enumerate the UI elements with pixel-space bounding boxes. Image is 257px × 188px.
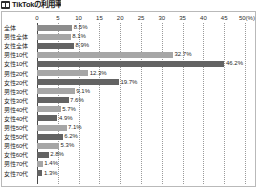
bar-value-label: 46.2% <box>226 60 243 67</box>
bar-value-label: 9.1% <box>76 88 90 95</box>
x-tick-label: 45 <box>221 14 228 22</box>
bar-value-label: 1.4% <box>44 160 58 167</box>
bar-value-label: 8.5% <box>74 24 88 31</box>
x-tick-label: 15 <box>96 14 103 22</box>
bar-rows: 全体8.5%男性全体8.1%女性全体8.9%男性10代32.7%女性10代46.… <box>2 23 255 184</box>
bar-category-label: 女性30代 <box>4 96 36 105</box>
bar-category-label: 女性40代 <box>4 114 36 123</box>
bar-category-label: 女性60代 <box>4 150 36 159</box>
bar-track: 32.7% <box>37 50 243 59</box>
bar-row: 男性10代32.7% <box>2 50 255 59</box>
bar-track: 6.2% <box>37 132 243 141</box>
x-tick-label: 40 <box>200 14 207 22</box>
bar-category-label: 女性20代 <box>4 78 36 87</box>
bar-track: 46.2% <box>37 59 243 68</box>
bar-row: 女性全体8.9% <box>2 41 255 50</box>
bar-value-label: 8.1% <box>72 33 86 40</box>
tiktok-usage-rate-chart-panel: TikTokの利用率 05101520253035404550(%) 全体8.5… <box>0 0 257 188</box>
bar <box>37 152 49 158</box>
bar-category-label: 男性50代 <box>4 123 36 132</box>
bar-category-label: 女性全体 <box>4 41 36 50</box>
bar <box>37 52 173 58</box>
bar-category-label: 男性40代 <box>4 105 36 114</box>
x-tick-label: 50(%) <box>239 14 255 22</box>
bar-row: 全体8.5% <box>2 23 255 32</box>
bar-row: 男性50代7.1% <box>2 123 255 132</box>
bar <box>37 43 74 49</box>
bar-row: 男性60代5.3% <box>2 141 255 150</box>
bar-value-label: 7.1% <box>68 124 82 131</box>
bar <box>37 61 224 67</box>
bar-row: 男性30代9.1% <box>2 87 255 96</box>
x-tick-label: 35 <box>179 14 186 22</box>
bar-value-label: 5.3% <box>61 142 75 149</box>
bar <box>37 88 75 94</box>
bar-category-label: 女性50代 <box>4 132 36 141</box>
bar-track: 7.1% <box>37 123 243 132</box>
bar-category-label: 男性70代 <box>4 159 36 168</box>
bar-row: 男性20代12.3% <box>2 68 255 77</box>
bar-value-label: 8.9% <box>76 42 90 49</box>
bar-track: 12.3% <box>37 68 243 77</box>
chart-plot-area: 05101520253035404550(%) 全体8.5%男性全体8.1%女性… <box>2 12 255 186</box>
x-tick-label: 30 <box>158 14 165 22</box>
x-tick-label: 10 <box>75 14 82 22</box>
bar-row: 男性全体8.1% <box>2 32 255 41</box>
bar-track: 4.9% <box>37 114 243 123</box>
chart-frame: 05101520253035404550(%) 全体8.5%男性全体8.1%女性… <box>1 11 256 187</box>
bar-category-label: 男性60代 <box>4 141 36 150</box>
panel-header: TikTokの利用率 <box>0 0 61 9</box>
bar <box>37 97 69 103</box>
bar <box>37 170 42 176</box>
bar-category-label: 男性20代 <box>4 68 36 77</box>
x-tick-label: 0 <box>35 14 38 22</box>
bar-row: 女性20代19.7% <box>2 78 255 87</box>
bar <box>37 143 59 149</box>
bar-category-label: 全体 <box>4 23 36 32</box>
x-tick-label: 25 <box>138 14 145 22</box>
bar <box>37 115 57 121</box>
bar-track: 7.6% <box>37 96 243 105</box>
grid-badge-icon <box>1 1 10 9</box>
bar-row: 女性10代46.2% <box>2 59 255 68</box>
bar <box>37 79 119 85</box>
bar-row: 男性40代5.7% <box>2 105 255 114</box>
bar-category-label: 男性30代 <box>4 87 36 96</box>
bar-track: 8.5% <box>37 23 243 32</box>
bar-value-label: 5.7% <box>62 106 76 113</box>
bar-value-label: 7.6% <box>70 97 84 104</box>
bar-row: 女性50代6.2% <box>2 132 255 141</box>
bar-track: 5.3% <box>37 141 243 150</box>
bar-track: 2.8% <box>37 150 243 159</box>
bar-track: 19.7% <box>37 78 243 87</box>
bar <box>37 125 67 131</box>
bar-track: 5.7% <box>37 105 243 114</box>
bar-row: 女性40代4.9% <box>2 114 255 123</box>
bar-value-label: 6.2% <box>64 133 78 140</box>
x-tick-label: 5 <box>56 14 59 22</box>
bar-category-label: 男性全体 <box>4 32 36 41</box>
bar-value-label: 12.3% <box>90 70 107 77</box>
bar-category-label: 女性70代 <box>4 169 36 178</box>
bar-value-label: 19.7% <box>120 79 137 86</box>
bar-track: 1.3% <box>37 169 243 178</box>
bar-row: 女性70代1.3% <box>2 169 255 178</box>
bar-category-label: 男性10代 <box>4 50 36 59</box>
bar-value-label: 32.7% <box>175 51 192 58</box>
bar <box>37 25 72 31</box>
bar-track: 8.1% <box>37 32 243 41</box>
bar <box>37 106 61 112</box>
bar-row: 女性30代7.6% <box>2 96 255 105</box>
bar-category-label: 女性10代 <box>4 59 36 68</box>
bar <box>37 134 63 140</box>
bar <box>37 161 43 167</box>
bar <box>37 34 71 40</box>
bar-track: 8.9% <box>37 41 243 50</box>
bar-track: 1.4% <box>37 159 243 168</box>
page-title: TikTokの利用率 <box>12 0 61 9</box>
bar-value-label: 2.8% <box>50 151 64 158</box>
bar-row: 男性70代1.4% <box>2 159 255 168</box>
bar-track: 9.1% <box>37 87 243 96</box>
bar-value-label: 1.3% <box>44 170 58 177</box>
bar <box>37 70 88 76</box>
